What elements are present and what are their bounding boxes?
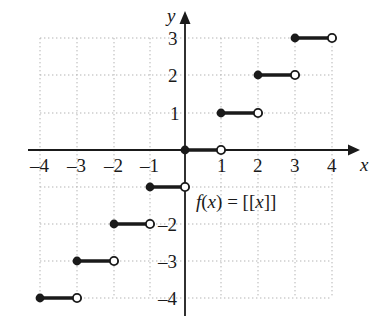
function-argument: x (208, 191, 216, 212)
function-paren-close: ) (216, 191, 222, 212)
x-tick-label-neg3: –3 (67, 156, 86, 175)
closed-point-2 (254, 71, 263, 80)
x-tick-label-2: 2 (253, 156, 263, 175)
step-function-graph: –4 –3 –2 –1 1 2 3 4 3 2 1 –2 –3 –4 x y f… (0, 0, 381, 327)
plot-area (0, 0, 381, 327)
closed-point-3 (291, 34, 300, 43)
floor-bracket-close: ]] (264, 191, 277, 212)
x-tick-label-neg2: –2 (104, 156, 123, 175)
y-tick-label-2: 2 (168, 66, 178, 85)
closed-point-1 (217, 109, 226, 118)
x-tick-label-4: 4 (327, 156, 337, 175)
closed-point-neg1 (146, 183, 155, 192)
open-point-2 (254, 109, 262, 117)
open-point-3 (291, 71, 299, 79)
y-tick-label-3: 3 (168, 29, 178, 48)
x-axis-label: x (360, 155, 368, 174)
x-tick-label-neg4: –4 (30, 156, 49, 175)
y-tick-label-neg3: –3 (158, 252, 177, 271)
y-tick-label-neg4: –4 (158, 289, 177, 308)
open-point-neg2 (110, 257, 118, 265)
closed-point-neg3 (73, 257, 82, 266)
open-point-0 (181, 183, 189, 191)
y-axis-label: y (167, 6, 175, 25)
y-tick-label-1: 1 (170, 104, 180, 123)
open-point-1 (217, 146, 225, 154)
x-tick-label-1: 1 (217, 156, 227, 175)
x-tick-label-neg1: –1 (140, 156, 159, 175)
x-axis-arrow (348, 145, 360, 156)
floor-bracket-open: [[ (243, 191, 256, 212)
closed-point-0 (181, 146, 190, 155)
floor-inner-variable: x (255, 191, 263, 212)
y-axis-arrow (180, 11, 191, 24)
closed-point-neg2 (110, 220, 119, 229)
open-point-neg3 (73, 294, 81, 302)
closed-point-neg4 (36, 294, 45, 303)
function-equals: = (227, 191, 238, 212)
x-tick-label-3: 3 (290, 156, 300, 175)
open-point-neg1 (146, 220, 154, 228)
open-point-4 (328, 34, 336, 42)
y-tick-label-neg2: –2 (158, 215, 177, 234)
function-equation-label: f(x) = [[x]] (196, 192, 276, 211)
